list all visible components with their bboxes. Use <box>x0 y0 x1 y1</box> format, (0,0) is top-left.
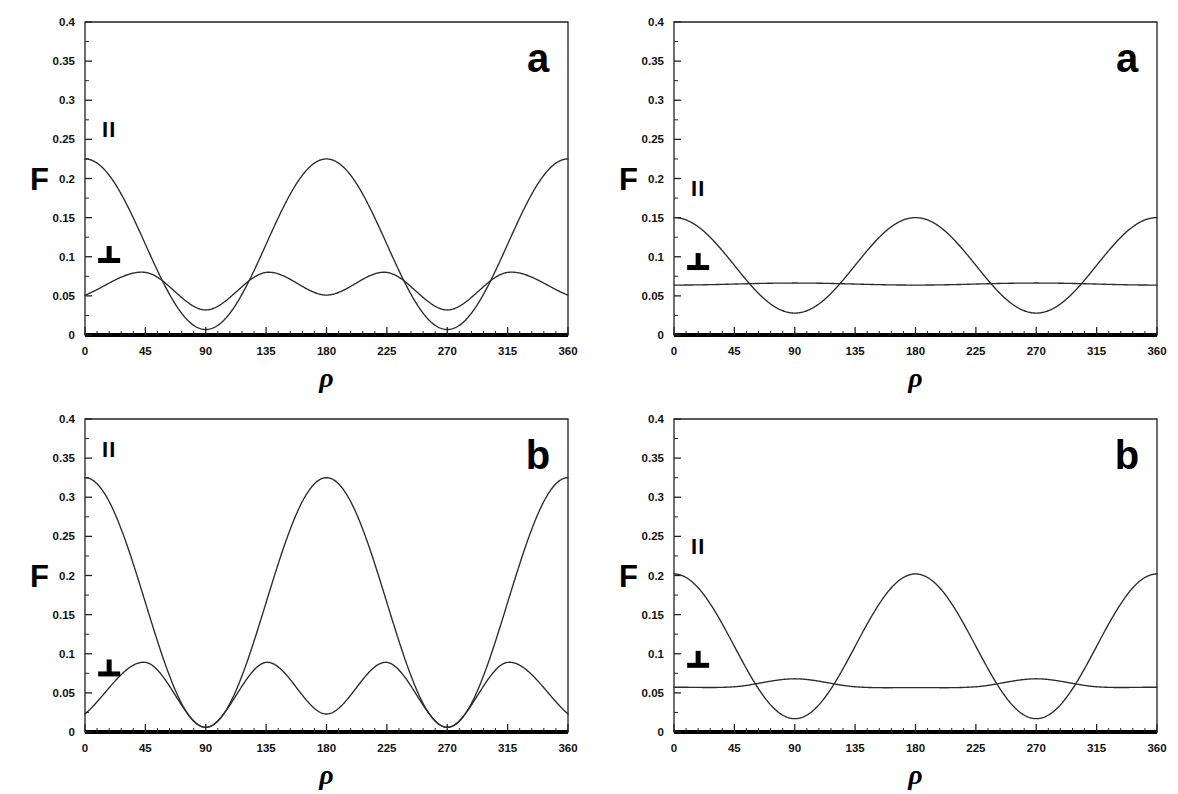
y-tick-label: 0 <box>658 726 664 738</box>
series-label-perpendicular <box>687 253 709 270</box>
y-tick-label: 0.1 <box>59 648 76 660</box>
y-tick-label: 0.1 <box>648 251 665 263</box>
y-axis-label: F <box>30 162 49 197</box>
y-tick-label: 0.2 <box>648 173 664 185</box>
plot-svg-bottom-left: 00.050.10.150.20.250.30.350.404590135180… <box>0 397 589 794</box>
y-tick-label: 0.35 <box>642 452 665 464</box>
x-tick-label: 135 <box>846 345 866 357</box>
x-tick-label: 315 <box>498 345 518 357</box>
x-tick-label: 270 <box>1027 345 1046 357</box>
y-tick-label: 0.4 <box>59 16 76 28</box>
x-tick-label: 270 <box>438 345 457 357</box>
y-tick-label: 0.3 <box>648 94 664 106</box>
y-tick-label: 0.35 <box>53 452 76 464</box>
y-tick-label: 0.3 <box>59 491 75 503</box>
x-tick-label: 0 <box>82 742 88 754</box>
x-tick-label: 360 <box>558 742 577 754</box>
series-label-parallel: II <box>102 437 116 462</box>
x-tick-label: 45 <box>728 345 741 357</box>
y-tick-label: 0.25 <box>53 133 76 145</box>
y-tick-label: 0.4 <box>59 413 76 425</box>
x-tick-label: 0 <box>671 345 677 357</box>
x-tick-label: 315 <box>1087 345 1107 357</box>
x-tick-label: 135 <box>257 742 277 754</box>
x-tick-label: 45 <box>139 345 152 357</box>
y-tick-label: 0.4 <box>648 16 665 28</box>
curve-perpendicular <box>674 283 1157 285</box>
plot-frame <box>674 22 1157 335</box>
y-tick-label: 0.15 <box>642 609 665 621</box>
y-tick-label: 0.25 <box>53 530 76 542</box>
x-tick-label: 225 <box>966 345 986 357</box>
series-label-parallel: II <box>691 534 705 559</box>
y-axis-label: F <box>30 559 49 594</box>
series-label-parallel: II <box>691 176 705 201</box>
x-tick-label: 90 <box>788 742 801 754</box>
plot-svg-top-left: 00.050.10.150.20.250.30.350.404590135180… <box>0 0 589 397</box>
panel-top-left: 00.050.10.150.20.250.30.350.404590135180… <box>0 0 589 397</box>
curve-perpendicular <box>674 679 1157 688</box>
y-tick-label: 0.1 <box>59 251 76 263</box>
series-label-parallel: II <box>102 117 116 142</box>
y-tick-label: 0.3 <box>648 491 664 503</box>
x-tick-label: 135 <box>846 742 866 754</box>
y-tick-label: 0.35 <box>642 55 665 67</box>
x-tick-label: 90 <box>199 345 212 357</box>
y-axis-label: F <box>619 559 638 594</box>
series-label-perpendicular <box>98 659 120 676</box>
y-tick-label: 0.2 <box>59 570 75 582</box>
y-tick-label: 0.15 <box>642 212 665 224</box>
x-tick-label: 315 <box>498 742 518 754</box>
x-tick-label: 90 <box>199 742 212 754</box>
x-axis-label: ρ <box>907 362 922 393</box>
curve-perpendicular <box>85 272 568 310</box>
x-tick-label: 180 <box>317 345 336 357</box>
y-tick-label: 0 <box>69 726 75 738</box>
plot-frame <box>85 419 568 732</box>
y-tick-label: 0.05 <box>53 290 76 302</box>
y-tick-label: 0.2 <box>59 173 75 185</box>
x-tick-label: 225 <box>377 742 397 754</box>
panel-letter: b <box>526 433 550 477</box>
plot-frame <box>85 22 568 335</box>
curve-parallel <box>674 218 1157 313</box>
y-tick-label: 0.3 <box>59 94 75 106</box>
y-tick-label: 0.35 <box>53 55 76 67</box>
panel-letter: a <box>527 36 550 80</box>
x-axis-label: ρ <box>907 759 922 790</box>
panel-bottom-right: 00.050.10.150.20.250.30.350.404590135180… <box>589 397 1178 794</box>
x-tick-label: 0 <box>82 345 88 357</box>
series-label-perpendicular <box>98 246 120 263</box>
y-tick-label: 0 <box>658 329 664 341</box>
panel-bottom-left: 00.050.10.150.20.250.30.350.404590135180… <box>0 397 589 794</box>
x-tick-label: 180 <box>317 742 336 754</box>
x-tick-label: 180 <box>906 742 925 754</box>
x-tick-label: 180 <box>906 345 925 357</box>
x-tick-label: 360 <box>1147 742 1166 754</box>
x-tick-label: 225 <box>377 345 397 357</box>
x-tick-label: 135 <box>257 345 277 357</box>
panel-letter: a <box>1116 36 1139 80</box>
y-tick-label: 0.15 <box>53 212 76 224</box>
x-tick-label: 225 <box>966 742 986 754</box>
curve-parallel <box>85 159 568 330</box>
x-tick-label: 45 <box>139 742 152 754</box>
panel-letter: b <box>1115 433 1139 477</box>
four-panel-figure: 00.050.10.150.20.250.30.350.404590135180… <box>0 0 1178 794</box>
y-tick-label: 0.05 <box>53 687 76 699</box>
plot-svg-bottom-right: 00.050.10.150.20.250.30.350.404590135180… <box>589 397 1178 794</box>
x-tick-label: 270 <box>1027 742 1046 754</box>
y-tick-label: 0 <box>69 329 75 341</box>
y-tick-label: 0.05 <box>642 687 665 699</box>
plot-svg-top-right: 00.050.10.150.20.250.30.350.404590135180… <box>589 0 1178 397</box>
curve-parallel <box>85 478 568 728</box>
curve-parallel <box>674 574 1157 719</box>
y-tick-label: 0.4 <box>648 413 665 425</box>
y-tick-label: 0.05 <box>642 290 665 302</box>
x-axis-label: ρ <box>318 759 333 790</box>
y-tick-label: 0.1 <box>648 648 665 660</box>
x-axis-label: ρ <box>318 362 333 393</box>
x-tick-label: 90 <box>788 345 801 357</box>
y-axis-label: F <box>619 162 638 197</box>
x-tick-label: 315 <box>1087 742 1107 754</box>
